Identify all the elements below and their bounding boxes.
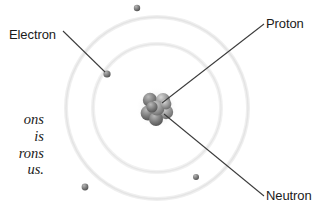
caption-line-1: ons xyxy=(0,111,44,128)
caption-line-4: us. xyxy=(0,161,44,178)
leader-line-neutron xyxy=(164,114,264,196)
caption-line-3: rons xyxy=(0,145,44,162)
label-electron: Electron xyxy=(9,28,56,42)
nucleus-particle-neutron-4 xyxy=(146,101,157,112)
electron-lower-left xyxy=(82,184,89,191)
nucleus xyxy=(136,87,178,129)
label-proton: Proton xyxy=(266,17,304,31)
electron-lower-right xyxy=(193,174,199,180)
label-neutron: Neutron xyxy=(266,189,312,203)
caption-text-clipped: ons is rons us. xyxy=(0,111,44,178)
electron-top xyxy=(134,5,140,11)
caption-line-2: is xyxy=(0,128,44,145)
atom-diagram-figure: Electron Proton Neutron ons is rons us. xyxy=(0,0,315,214)
